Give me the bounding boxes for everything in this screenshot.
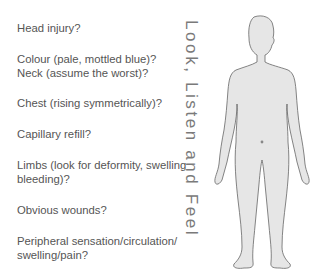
item-head-injury: Head injury?: [17, 21, 80, 35]
item-capillary-refill: Capillary refill?: [17, 127, 91, 141]
item-limbs-cont: bleeding)?: [17, 172, 70, 186]
look-listen-feel-text: Look, Listen and Feel: [181, 20, 201, 237]
item-limbs: Limbs (look for deformity, swelling: [17, 158, 186, 172]
item-colour: Colour (pale, mottled blue)?: [17, 52, 156, 66]
vertical-label: Look, Listen and Feel: [183, 20, 203, 270]
item-peripheral: Peripheral sensation/circulation/: [17, 234, 177, 248]
human-body-icon: [210, 12, 310, 274]
item-chest: Chest (rising symmetrically)?: [17, 96, 162, 110]
item-peripheral-cont: swelling/pain?: [17, 248, 88, 262]
item-obvious-wounds: Obvious wounds?: [17, 203, 107, 217]
item-neck: Neck (assume the worst)?: [17, 66, 148, 80]
